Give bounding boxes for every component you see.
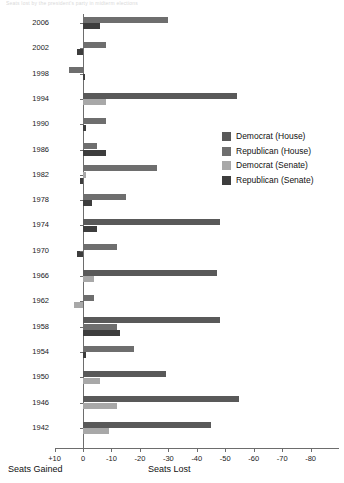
y-tick-label: 1994 xyxy=(9,95,49,103)
bar xyxy=(83,378,100,384)
bar xyxy=(83,99,106,105)
y-tick-label: 1990 xyxy=(9,120,49,128)
x-tick-label: -40 xyxy=(184,454,210,463)
y-tick xyxy=(80,74,83,75)
bar xyxy=(83,172,86,178)
y-tick xyxy=(80,352,83,353)
y-tick xyxy=(80,23,83,24)
bar xyxy=(83,42,106,48)
x-tick-label: -80 xyxy=(298,454,324,463)
y-tick-label: 1942 xyxy=(9,424,49,432)
y-tick-label: 1950 xyxy=(9,373,49,381)
y-tick-label: 1970 xyxy=(9,247,49,255)
x-tick xyxy=(140,448,141,452)
bar xyxy=(83,276,94,282)
x-tick-label: -30 xyxy=(155,454,181,463)
bar xyxy=(83,125,86,131)
midterm-seat-loss-chart: Seats lost by the president's party in m… xyxy=(0,0,344,483)
y-tick xyxy=(80,377,83,378)
y-tick-label: 1998 xyxy=(9,70,49,78)
x-tick-label: -10 xyxy=(98,454,124,463)
legend-swatch-icon xyxy=(222,132,231,141)
x-tick xyxy=(254,448,255,452)
y-tick-label: 1954 xyxy=(9,348,49,356)
bar xyxy=(83,244,117,250)
x-tick xyxy=(197,448,198,452)
bar xyxy=(83,74,85,80)
bar xyxy=(83,23,100,29)
x-tick-label: -20 xyxy=(127,454,153,463)
bar xyxy=(83,270,217,276)
x-tick xyxy=(111,448,112,452)
x-axis-right-caption: Seats Lost xyxy=(148,464,191,474)
bar xyxy=(83,219,220,225)
y-tick-label: 1966 xyxy=(9,272,49,280)
x-tick-label: -70 xyxy=(269,454,295,463)
y-tick xyxy=(80,251,83,252)
bar xyxy=(83,165,157,171)
x-axis-left-caption: Seats Gained xyxy=(8,464,63,474)
x-tick-label: -50 xyxy=(212,454,238,463)
bar xyxy=(83,150,106,156)
x-tick xyxy=(225,448,226,452)
x-tick xyxy=(55,448,56,452)
y-tick-label: 1958 xyxy=(9,323,49,331)
bar xyxy=(83,403,117,409)
bar xyxy=(77,49,83,55)
bar xyxy=(83,428,109,434)
y-tick xyxy=(80,327,83,328)
y-tick xyxy=(80,403,83,404)
bar xyxy=(83,346,134,352)
y-tick xyxy=(80,150,83,151)
y-tick-label: 2002 xyxy=(9,44,49,52)
x-tick xyxy=(83,448,84,452)
y-tick xyxy=(80,225,83,226)
legend-swatch-icon xyxy=(222,161,231,170)
y-tick xyxy=(80,124,83,125)
y-tick xyxy=(80,276,83,277)
bar xyxy=(83,317,220,323)
chart-top-caption: Seats lost by the president's party in m… xyxy=(6,0,138,6)
bar xyxy=(83,295,94,301)
legend-swatch-icon xyxy=(222,147,231,156)
y-tick-label: 1978 xyxy=(9,196,49,204)
legend-swatch-icon xyxy=(222,176,231,185)
x-tick-label: 0 xyxy=(70,454,96,463)
y-tick xyxy=(80,200,83,201)
legend-item-label: Democrat (House) xyxy=(236,130,305,142)
bar xyxy=(83,330,120,336)
y-tick-label: 1946 xyxy=(9,399,49,407)
bar xyxy=(83,422,211,428)
legend-item-label: Republican (Senate) xyxy=(236,174,314,186)
y-tick xyxy=(80,301,83,302)
y-tick xyxy=(80,99,83,100)
bar xyxy=(69,67,83,73)
x-tick xyxy=(282,448,283,452)
bar xyxy=(77,251,83,257)
y-tick-label: 1982 xyxy=(9,171,49,179)
bar xyxy=(83,17,168,23)
y-tick xyxy=(80,175,83,176)
y-tick-label: 1986 xyxy=(9,146,49,154)
y-tick-label: 1974 xyxy=(9,221,49,229)
x-tick xyxy=(168,448,169,452)
x-tick-label: -60 xyxy=(241,454,267,463)
bar xyxy=(83,118,106,124)
y-tick-label: 1962 xyxy=(9,297,49,305)
bar xyxy=(83,371,166,377)
x-tick xyxy=(311,448,312,452)
y-tick xyxy=(80,48,83,49)
x-tick-label: +10 xyxy=(42,454,68,463)
bar xyxy=(83,226,97,232)
bar xyxy=(83,396,239,402)
bar xyxy=(74,302,83,308)
legend-item-label: Democrat (Senate) xyxy=(236,159,308,171)
bar xyxy=(80,178,83,184)
bar xyxy=(83,93,237,99)
legend-item-label: Republican (House) xyxy=(236,145,311,157)
bar xyxy=(83,143,97,149)
y-tick-label: 2006 xyxy=(9,19,49,27)
bar xyxy=(83,194,126,200)
plot-area xyxy=(55,14,339,448)
bar xyxy=(83,200,92,206)
